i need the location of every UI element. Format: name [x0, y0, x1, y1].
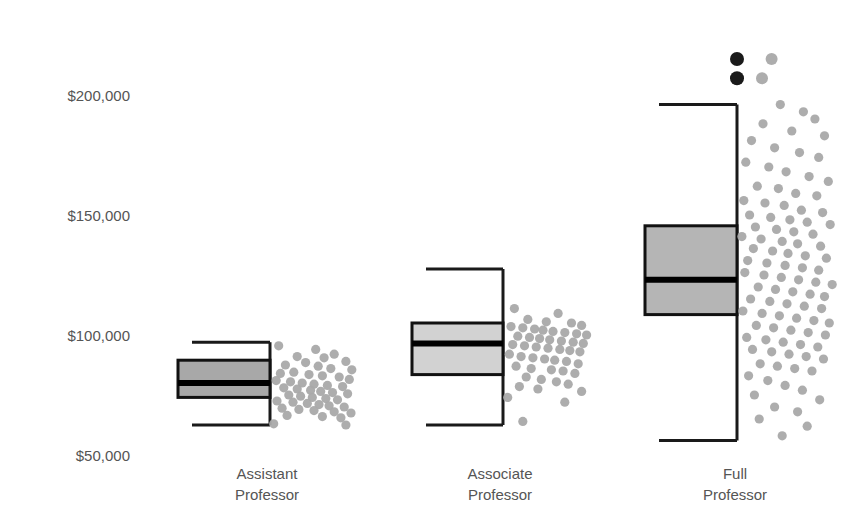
x-axis-label-line: Professor	[703, 486, 767, 503]
data-point-dot	[574, 359, 583, 368]
data-point-dot	[269, 419, 278, 428]
data-point-dot	[740, 268, 749, 277]
data-point-dot	[517, 352, 526, 361]
data-point-dot	[807, 366, 816, 375]
data-point-dot	[560, 328, 569, 337]
data-point-dot	[293, 352, 302, 361]
data-point-dot	[763, 376, 772, 385]
data-point-dot	[794, 275, 803, 284]
data-point-dot	[527, 364, 536, 373]
data-point-dot	[530, 324, 539, 333]
data-point-dot	[771, 285, 780, 294]
data-point-dot	[766, 53, 778, 65]
data-point-dot	[525, 333, 534, 342]
plot-area: $200,000$150,000$100,000$50,000 Assistan…	[0, 0, 860, 527]
data-point-dot	[743, 256, 752, 265]
data-point-dot	[542, 317, 551, 326]
data-point-dot	[780, 201, 789, 210]
data-point-dot	[777, 273, 786, 282]
data-point-dot	[813, 342, 822, 351]
data-point-dot	[579, 339, 588, 348]
data-point-dot	[753, 182, 762, 191]
y-axis-tick-label: $150,000	[67, 207, 130, 224]
data-point-dot	[523, 315, 532, 324]
x-axis-category-label: FullProfessor	[703, 465, 767, 503]
data-point-dot	[272, 376, 281, 385]
data-point-dot	[779, 338, 788, 347]
data-point-dot	[809, 316, 818, 325]
data-point-dot	[752, 321, 761, 330]
data-point-dot	[820, 292, 829, 301]
data-point-dot	[520, 341, 529, 350]
data-point-dot	[755, 414, 764, 423]
data-point-dot	[801, 251, 810, 260]
data-point-dot	[800, 302, 809, 311]
x-axis-label-line: Full	[723, 465, 747, 482]
data-point-dot	[808, 230, 817, 239]
data-point-dot	[511, 362, 520, 371]
data-point-dot	[815, 395, 824, 404]
data-point-dot	[303, 399, 312, 408]
box-plot-series	[178, 105, 737, 441]
data-point-dot	[510, 304, 519, 313]
data-point-dot	[326, 364, 335, 373]
data-point-dot	[778, 237, 787, 246]
data-point-dot	[804, 328, 813, 337]
data-point-dot	[817, 304, 826, 313]
data-point-dot	[822, 254, 831, 263]
data-point-dot	[782, 167, 791, 176]
data-point-dot	[564, 380, 573, 389]
data-point-dot	[535, 334, 544, 343]
data-point-dot	[506, 322, 515, 331]
data-point-dot	[314, 362, 323, 371]
data-point-dot	[274, 341, 283, 350]
x-axis-label-line: Professor	[235, 486, 299, 503]
data-point-dot	[515, 382, 524, 391]
jitter-cloud-2	[503, 304, 591, 426]
data-point-dot	[345, 375, 354, 384]
data-point-dot	[802, 352, 811, 361]
data-point-dot	[766, 213, 775, 222]
data-point-dot	[518, 323, 527, 332]
data-point-dot	[776, 100, 785, 109]
outlier-marker	[730, 71, 744, 85]
data-point-dot	[335, 372, 344, 381]
data-point-dot	[762, 258, 771, 267]
x-axis-label-line: Professor	[468, 486, 532, 503]
data-point-dot	[784, 350, 793, 359]
data-point-dot	[805, 172, 814, 181]
data-point-dot	[828, 280, 837, 289]
data-point-dot	[540, 354, 549, 363]
data-point-dot	[810, 114, 819, 123]
data-point-dot	[318, 412, 327, 421]
data-point-dot	[812, 191, 821, 200]
data-point-dot	[552, 377, 561, 386]
y-axis-tick-label: $100,000	[67, 327, 130, 344]
data-point-dot	[533, 384, 542, 393]
data-point-dot	[788, 287, 797, 296]
data-point-dot	[537, 375, 546, 384]
data-point-dot	[304, 370, 313, 379]
outlier-markers	[730, 52, 778, 85]
data-point-dot	[320, 353, 329, 362]
data-point-dot	[816, 242, 825, 251]
data-point-dot	[773, 362, 782, 371]
x-axis-label-line: Assistant	[237, 465, 299, 482]
x-axis-category-label: AssistantProfessor	[235, 465, 299, 503]
data-point-dot	[792, 314, 801, 323]
box-plot-group	[412, 269, 503, 425]
x-axis-category-labels: AssistantProfessorAssociateProfessorFull…	[235, 465, 767, 503]
data-point-dot	[775, 311, 784, 320]
data-point-dot	[758, 119, 767, 128]
data-point-dot	[557, 336, 566, 345]
data-point-dot	[790, 364, 799, 373]
data-point-dot	[577, 387, 586, 396]
data-point-dot	[781, 381, 790, 390]
data-point-dot	[550, 356, 559, 365]
data-point-dot	[575, 347, 584, 356]
data-point-dot	[301, 358, 310, 367]
data-point-dot	[746, 294, 755, 303]
data-point-dot	[803, 218, 812, 227]
data-point-dot	[560, 398, 569, 407]
data-point-dot	[289, 368, 298, 377]
